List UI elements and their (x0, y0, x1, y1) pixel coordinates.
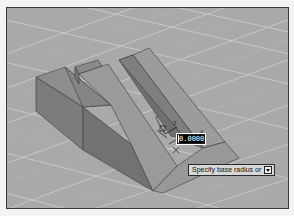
dynamic-input-value[interactable]: 0.0000 (179, 135, 204, 143)
drawing-viewport[interactable]: Z Y X 0.0000 Specify base radius or (6, 7, 289, 209)
down-arrow-key-icon[interactable] (264, 166, 272, 174)
command-prompt-text: Specify base radius or (192, 165, 261, 175)
dynamic-input-radius-field[interactable]: 0.0000 (177, 134, 205, 144)
model-space-canvas[interactable]: Z Y X (7, 8, 289, 209)
z-axis-label: Z (173, 120, 177, 126)
command-prompt-tooltip: Specify base radius or (188, 164, 275, 176)
